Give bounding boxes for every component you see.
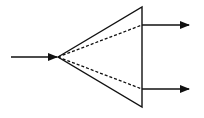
- splitter-diagram: [0, 0, 204, 118]
- dashed-path-upper: [58, 25, 142, 57]
- dashed-path-lower: [58, 57, 142, 89]
- triangle-prism: [58, 7, 142, 107]
